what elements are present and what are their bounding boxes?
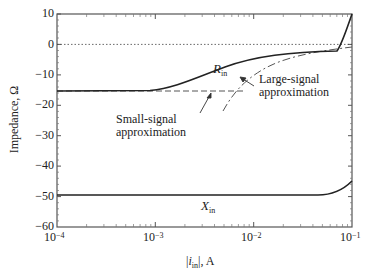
large-signal-annotation: Large-signal approximation (259, 73, 329, 99)
y-tick-0: 0 (36, 38, 54, 51)
y-tick-neg30: −30 (30, 129, 54, 142)
small-signal-arrowhead (207, 93, 211, 98)
x-in-line (57, 181, 352, 195)
y-tick-neg10: −10 (30, 68, 54, 81)
x-in-label: Xin (201, 199, 215, 214)
x-tick-1e-3: 10−3 (143, 231, 164, 244)
small-signal-annotation: Small-signal approximation (116, 113, 186, 139)
y-tick-neg40: −40 (30, 159, 54, 172)
x-tick-1e-2: 10−2 (241, 231, 262, 244)
x-tick-1e-1: 10−1 (340, 231, 361, 244)
y-tick-neg20: −20 (30, 98, 54, 111)
x-tick-1e-4: 10−4 (44, 231, 65, 244)
y-tick-10: 10 (36, 7, 54, 20)
r-in-label: Rin (213, 62, 227, 77)
y-tick-neg50: −50 (30, 190, 54, 203)
y-minor-ticks (57, 20, 352, 221)
y-axis-label: Impedance, Ω (8, 70, 21, 170)
x-axis-label: |iin|, A (186, 255, 214, 269)
large-signal-arrowhead (240, 77, 246, 82)
annotation-arrows (200, 77, 254, 113)
